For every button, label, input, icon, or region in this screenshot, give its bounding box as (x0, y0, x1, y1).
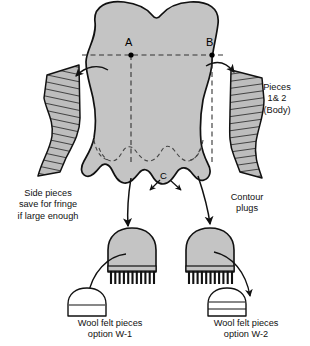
body-piece (82, 2, 224, 190)
wool-w2-line-1: Wool felt pieces (182, 318, 310, 329)
side-pieces-line-3: if large enough (2, 211, 94, 222)
wool-felt-w1-caption: Wool felt pieces option W-1 (46, 318, 174, 341)
wool-felt-w1 (68, 288, 106, 316)
wool-w2-line-2: option W-2 (182, 329, 310, 340)
side-pieces-line-1: Side pieces (2, 188, 94, 199)
pieces-line-1: Pieces (246, 82, 308, 93)
side-pieces-line-2: save for fringe (2, 199, 94, 210)
side-pieces-caption: Side pieces save for fringe if large eno… (2, 188, 94, 222)
point-a-label: A (125, 36, 132, 48)
pieces-body-caption: Pieces 1& 2 (Body) (246, 82, 308, 116)
fringe-teeth-left (111, 271, 154, 284)
wool-w1-line-1: Wool felt pieces (46, 318, 174, 329)
wool-felt-w2-caption: Wool felt pieces option W-2 (182, 318, 310, 341)
point-c-label: C (160, 170, 167, 181)
wool-w1-line-2: option W-1 (46, 329, 174, 340)
diagram-canvas (0, 0, 310, 346)
contour-plugs-caption: Contour plugs (212, 192, 282, 215)
contour-line-1: Contour (212, 192, 282, 203)
pieces-line-2: 1& 2 (246, 93, 308, 104)
pattern-diagram: A B C Side pieces save for fringe if lar… (0, 0, 310, 346)
point-b-label: B (206, 36, 213, 48)
pieces-line-3: (Body) (246, 105, 308, 116)
wool-felt-w2 (208, 288, 246, 316)
contour-plug-left (88, 228, 156, 296)
point-b-marker (209, 52, 214, 57)
contour-plug-right (186, 228, 250, 296)
point-a-marker (128, 52, 133, 57)
contour-line-2: plugs (212, 203, 282, 214)
fringe-teeth-right (189, 271, 232, 284)
side-piece-left (38, 65, 80, 176)
